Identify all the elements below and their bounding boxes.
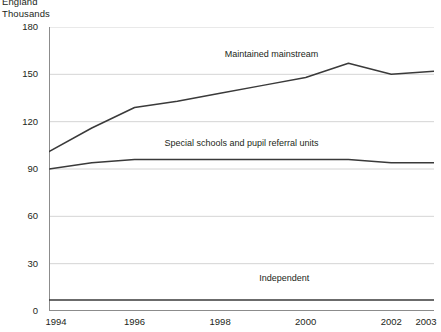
x-tick-label-2003: 2003 xyxy=(410,316,441,327)
y-tick-label-90: 90 xyxy=(8,163,38,174)
series-lines xyxy=(49,63,434,300)
plot-svg xyxy=(49,27,434,311)
y-tick-label-180: 180 xyxy=(8,21,38,32)
region-title: England xyxy=(2,0,38,7)
units-label: Thousands xyxy=(2,8,50,19)
series-annotation-1: Special schools and pupil referral units xyxy=(164,138,318,148)
y-tick-label-120: 120 xyxy=(8,116,38,127)
y-tick-label-0: 0 xyxy=(8,305,38,316)
series-line-1 xyxy=(49,160,434,169)
line-chart: England Thousands 0306090120150180 19941… xyxy=(0,0,441,332)
series-annotation-2: Independent xyxy=(259,273,309,283)
x-tick-label-2000: 2000 xyxy=(290,316,322,327)
x-tick-label-2002: 2002 xyxy=(375,316,407,327)
x-tick-label-1998: 1998 xyxy=(204,316,236,327)
series-annotation-0: Maintained mainstream xyxy=(225,49,319,59)
y-tick-label-150: 150 xyxy=(8,68,38,79)
y-tick-label-60: 60 xyxy=(8,210,38,221)
plot-area xyxy=(49,27,434,311)
x-tick-label-1996: 1996 xyxy=(119,316,151,327)
y-tick-label-30: 30 xyxy=(8,258,38,269)
x-tick-label-1994: 1994 xyxy=(40,316,72,327)
